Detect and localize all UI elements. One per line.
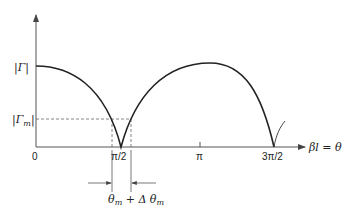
reflection-coefficient-diagram: |Γ| |Γm| 0 π/2 π 3π/2 βl = θ θm + Δ θm xyxy=(0,0,345,213)
gamma-curve-continuation xyxy=(274,121,285,147)
tick-label-0: 0 xyxy=(32,151,38,162)
tick-label-pi: π xyxy=(196,151,203,162)
x-axis-label: βl = θ xyxy=(308,141,342,154)
tick-label-pi-over-2: π/2 xyxy=(111,151,127,162)
tick-label-3pi-over-2: 3π/2 xyxy=(262,151,283,162)
gamma-curve xyxy=(36,63,274,147)
gamma-m-label: |Γm| xyxy=(12,113,35,128)
bandwidth-label: θm + Δ θm xyxy=(108,193,165,207)
gamma-label: |Γ| xyxy=(14,61,29,75)
